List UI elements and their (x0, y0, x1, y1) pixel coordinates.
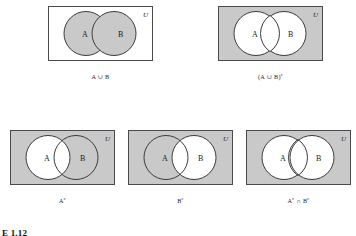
label-set-b: B (198, 154, 203, 163)
label-set-a: A (162, 154, 168, 163)
circle-b (172, 136, 216, 180)
label-set-a: A (252, 30, 258, 39)
caption-text-mid: ∩ B (294, 197, 307, 204)
caption-superscript-2: c (307, 196, 309, 201)
label-set-a: A (82, 30, 88, 39)
figure-number: E 1.12 (2, 228, 27, 236)
circle-b (290, 136, 334, 180)
venn-svg-a-union-b-complement: U A B (218, 6, 323, 61)
label-set-a: A (44, 154, 50, 163)
caption-text: A ∪ B (91, 73, 109, 80)
circle-b (92, 12, 136, 56)
venn-diagram-a-complement-intersect-b-complement: U A B Ac ∩ Bc (246, 130, 351, 185)
venn-svg-a-union-b: U A B (48, 6, 153, 61)
label-set-a: A (280, 154, 286, 163)
venn-diagram-b-complement: U A B Bc (128, 130, 233, 185)
caption-text: (A ∪ B) (258, 73, 281, 80)
caption-a-union-b-complement: (A ∪ B)c (218, 73, 323, 80)
caption-superscript: c (182, 196, 184, 201)
venn-diagram-figure: U A B A ∪ B U A B (A ∪ B)c U (0, 0, 356, 236)
venn-diagram-a-union-b: U A B A ∪ B (48, 6, 153, 61)
caption-a-complement-intersect-b-complement: Ac ∩ Bc (246, 197, 351, 204)
caption-a-union-b: A ∪ B (48, 73, 153, 80)
venn-svg-b-complement: U A B (128, 130, 233, 185)
label-set-b: B (118, 30, 123, 39)
venn-diagram-a-union-b-complement: U A B (A ∪ B)c (218, 6, 323, 61)
caption-superscript: c (64, 196, 66, 201)
label-set-b: B (316, 154, 321, 163)
venn-svg-a-complement-intersect-b-complement: U A B (246, 130, 351, 185)
caption-a-complement: Ac (10, 197, 115, 204)
caption-superscript: c (281, 72, 283, 77)
venn-diagram-a-complement: U A B Ac (10, 130, 115, 185)
label-set-b: B (288, 30, 293, 39)
label-set-b: B (80, 154, 85, 163)
caption-b-complement: Bc (128, 197, 233, 204)
venn-svg-a-complement: U A B (10, 130, 115, 185)
